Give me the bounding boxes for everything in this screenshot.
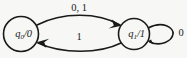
transition-q0-to-q1-path (37, 15, 120, 25)
transition-q0-to-q1 (37, 15, 122, 28)
transition-q0-to-q1-label: 0, 1 (71, 2, 87, 13)
state-node-q0-label: q0/0 (0, 28, 50, 41)
state-diagram-container: q0/0 q1/1 0, 1 1 0 (0, 0, 187, 58)
state-diagram-canvas: q0/0 q1/1 0, 1 1 0 (0, 0, 187, 58)
state-node-q1-output: 1 (140, 28, 145, 39)
transition-q1-to-q0-label: 1 (76, 31, 81, 42)
transition-q1-to-q0-path (38, 43, 121, 51)
state-node-q0-output: 0 (27, 28, 33, 39)
transition-q1-self-loop-label: 0 (178, 27, 183, 38)
